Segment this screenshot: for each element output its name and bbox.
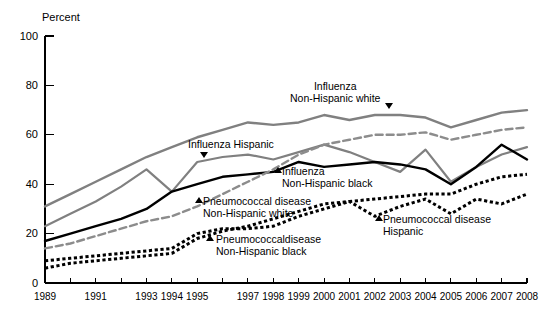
x-tick-label-1995: 1995	[175, 292, 219, 302]
annotation-pneumococcal-hispanic: Pneumococcal disease Hispanic	[383, 213, 491, 237]
annotation-line-1: Influenza	[282, 165, 372, 177]
annotation-line-1: Pneumococcal disease	[203, 195, 311, 207]
annotation-line-2: Non-Hispanic white	[203, 207, 311, 219]
annotation-line-1: Pneumococcaldisease	[216, 233, 321, 245]
annotation-pointer-up-icon-pneumococcal-nhb	[206, 235, 214, 241]
annotation-pneumococcal-non-hispanic-black: Pneumococcaldisease Non-Hispanic black	[216, 233, 321, 257]
chart-plot-area	[0, 0, 557, 317]
annotation-line-1: Pneumococcal disease	[383, 213, 491, 225]
annotation-influenza-non-hispanic-white: Influenza Non-Hispanic white	[290, 80, 380, 104]
annotation-line-1: Influenza	[290, 80, 380, 92]
annotation-line-2: Non-Hispanic black	[216, 245, 321, 257]
annotation-pointer-up-icon-influenza-nhb	[274, 167, 282, 173]
annotation-pointer-up-icon-pneumococcal-nhw	[195, 197, 203, 203]
annotation-line-2: Non-Hispanic black	[282, 177, 372, 189]
y-tick-label-0: 0	[8, 278, 38, 289]
annotation-pointer-down-icon-influenza-hispanic	[200, 152, 208, 158]
x-tick-label-2008: 2008	[505, 292, 549, 302]
annotation-influenza-hispanic: Influenza Hispanic	[188, 138, 274, 150]
y-tick-label-100: 100	[8, 31, 38, 42]
y-tick-label-60: 60	[8, 129, 38, 140]
annotation-line-2: Hispanic	[383, 225, 491, 237]
annotation-pointer-down-icon-influenza-nhw	[385, 103, 393, 109]
annotation-line-2: Non-Hispanic white	[290, 92, 380, 104]
annotation-line-1: Influenza Hispanic	[188, 138, 274, 150]
annotation-pointer-up-icon-pneumococcal-hispanic	[375, 215, 383, 221]
figure-container: Percent 020406080100 1989199119931994199…	[0, 0, 557, 317]
x-tick-label-1989: 1989	[23, 292, 67, 302]
x-tick-label-1991: 1991	[74, 292, 118, 302]
x-axis-ticks	[45, 278, 527, 283]
y-tick-label-40: 40	[8, 179, 38, 190]
y-tick-label-80: 80	[8, 80, 38, 91]
annotation-influenza-non-hispanic-black: Influenza Non-Hispanic black	[282, 165, 372, 189]
annotation-pneumococcal-non-hispanic-white: Pneumococcal disease Non-Hispanic white	[203, 195, 311, 219]
y-tick-label-20: 20	[8, 228, 38, 239]
